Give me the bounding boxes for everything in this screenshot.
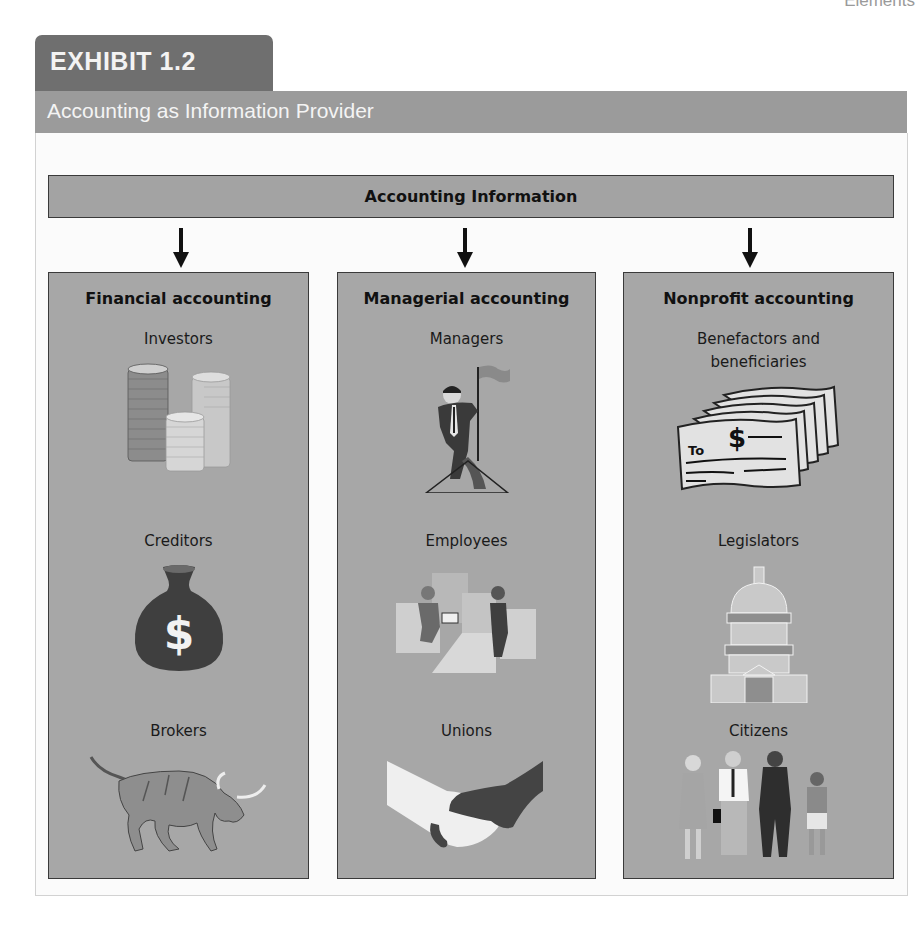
- coin-stacks-icon: [124, 361, 234, 473]
- accounting-information-box: Accounting Information: [48, 175, 894, 218]
- audience-label: Creditors: [49, 531, 308, 552]
- audience-label: Managers: [338, 329, 595, 350]
- citizens-icon: [679, 749, 839, 867]
- audience-label: Employees: [338, 531, 595, 552]
- bull-icon: [89, 751, 269, 861]
- column-title: Managerial accounting: [338, 289, 595, 308]
- source-label: Accounting Information: [365, 187, 578, 206]
- audience-label: Investors: [49, 329, 308, 350]
- audience-label: Brokers: [49, 721, 308, 742]
- column-nonprofit-accounting: Nonprofit accounting Benefactors and ben…: [623, 272, 894, 879]
- column-title: Financial accounting: [49, 289, 308, 308]
- audience-label: Unions: [338, 721, 595, 742]
- column-financial-accounting: Financial accounting Investors Creditors…: [48, 272, 309, 879]
- capitol-icon: [709, 563, 809, 703]
- audience-label: Legislators: [624, 531, 893, 552]
- column-title: Nonprofit accounting: [624, 289, 893, 308]
- running-header: Elements: [844, 0, 915, 11]
- down-arrow-icon: [173, 228, 189, 268]
- svg-text:To: To: [688, 443, 704, 458]
- manager-with-flag-icon: [412, 361, 522, 493]
- audience-label-line-2: beneficiaries: [624, 352, 893, 373]
- checks-icon: To $: [674, 385, 844, 495]
- down-arrow-icon: [742, 228, 758, 268]
- column-managerial-accounting: Managerial accounting Managers Employees…: [337, 272, 596, 879]
- exhibit-title-band: Accounting as Information Provider: [35, 91, 907, 133]
- down-arrow-icon: [457, 228, 473, 268]
- svg-text:$: $: [163, 608, 194, 659]
- workers-icon: [392, 563, 542, 673]
- exhibit-tab: EXHIBIT 1.2: [35, 35, 273, 91]
- audience-label-line-1: Benefactors and: [624, 329, 893, 350]
- handshake-icon: [387, 761, 547, 853]
- exhibit-label: EXHIBIT 1.2: [50, 47, 196, 76]
- money-bag-icon: $: [131, 563, 227, 673]
- svg-text:$: $: [728, 423, 746, 453]
- exhibit-title: Accounting as Information Provider: [47, 99, 374, 123]
- audience-label: Citizens: [624, 721, 893, 742]
